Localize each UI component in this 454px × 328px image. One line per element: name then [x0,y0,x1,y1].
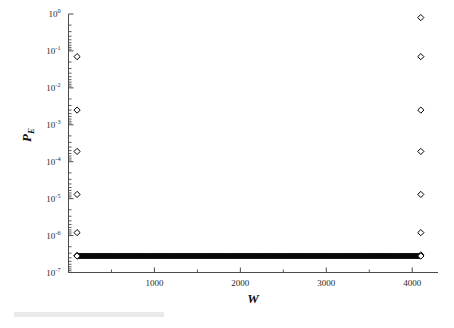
data-point-marker [418,191,424,197]
caption-artifact [14,312,164,317]
y-tick-label: 10-6 [46,229,60,241]
y-tick-label: 10-5 [46,192,60,204]
y-tick-label: 10-2 [46,81,60,93]
data-points-layer [74,14,424,259]
data-point-marker [418,107,424,113]
data-point-marker [418,14,424,20]
y-axis-title: PE [19,128,36,142]
x-tick-label: 1000 [145,278,164,288]
y-tick-label: 10-1 [46,44,60,56]
y-tick-label: 10-3 [46,118,60,130]
data-point-marker [418,54,424,60]
data-point-marker [418,230,424,236]
x-axis-tick-labels: 1000200030004000 [145,278,421,288]
data-point-marker [418,148,424,154]
data-point-marker [74,191,80,197]
data-point-marker [74,54,80,60]
figure-container: 10010-110-210-310-410-510-610-7 10002000… [0,0,454,328]
x-axis-title: W [247,291,260,306]
y-tick-label: 100 [48,7,60,19]
data-point-marker [74,230,80,236]
x-tick-label: 3000 [317,278,336,288]
y-axis-ticks [69,14,74,273]
x-tick-label: 4000 [403,278,422,288]
y-tick-label: 10-7 [46,266,60,278]
data-point-marker [74,148,80,154]
x-tick-label: 2000 [231,278,250,288]
y-tick-label: 10-4 [46,155,60,167]
y-axis-tick-labels: 10010-110-210-310-410-510-610-7 [46,7,60,278]
scatter-plot: 10010-110-210-310-410-510-610-7 10002000… [0,0,454,328]
x-axis-ticks [111,268,412,273]
data-point-marker [74,107,80,113]
